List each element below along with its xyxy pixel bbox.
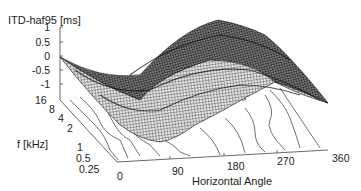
f-tick-4: 4: [58, 113, 64, 124]
x-tick-90: 90: [172, 166, 184, 177]
f-tick-8: 8: [49, 104, 55, 115]
z-tick-neg0.5: -0.5: [20, 65, 50, 76]
f-tick-1: 1: [77, 142, 83, 153]
f-tick-0.5: 0.5: [76, 153, 91, 164]
x-axis-label: Horizontal Angle: [192, 176, 272, 187]
f-tick-2: 2: [67, 123, 73, 134]
z-tick-1: 1: [20, 22, 50, 33]
x-tick-270: 270: [277, 156, 295, 167]
x-tick-180: 180: [227, 161, 245, 172]
f-axis-label: f [kHz]: [17, 139, 48, 150]
f-tick-16: 16: [35, 95, 47, 106]
z-tick-neg1: -1: [20, 79, 50, 90]
x-tick-0: 0: [117, 171, 123, 182]
f-tick-0.25: 0.25: [79, 164, 99, 175]
z-tick-0.5: 0.5: [20, 37, 50, 48]
z-tick-0: 0: [20, 51, 50, 62]
x-tick-360: 360: [332, 153, 350, 164]
surface-plot: [0, 0, 361, 191]
